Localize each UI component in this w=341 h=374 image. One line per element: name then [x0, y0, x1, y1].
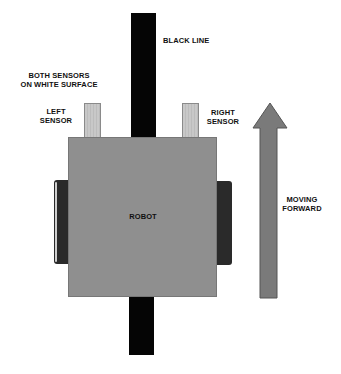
- right-sensor-line-2: SENSOR: [203, 117, 243, 126]
- right-sensor: [182, 103, 199, 139]
- left-sensor-label: LEFT SENSOR: [36, 107, 76, 125]
- status-line-2: ON WHITE SURFACE: [14, 80, 104, 89]
- black-line-label: BLACK LINE: [163, 36, 223, 45]
- robot-label: ROBOT: [118, 212, 168, 221]
- status-line-1: BOTH SENSORS: [14, 71, 104, 80]
- robot-text: ROBOT: [129, 212, 157, 221]
- direction-line-1: MOVING: [279, 195, 325, 204]
- left-sensor-line-1: LEFT: [36, 107, 76, 116]
- left-sensor: [84, 103, 101, 139]
- status-label: BOTH SENSORS ON WHITE SURFACE: [14, 71, 104, 89]
- right-sensor-label: RIGHT SENSOR: [203, 108, 243, 126]
- direction-line-2: FORWARD: [279, 204, 325, 213]
- black-line-text: BLACK LINE: [163, 36, 209, 45]
- direction-label: MOVING FORWARD: [279, 195, 325, 213]
- left-sensor-line-2: SENSOR: [36, 116, 76, 125]
- black-line-top: [131, 13, 156, 139]
- right-sensor-line-1: RIGHT: [203, 108, 243, 117]
- black-line-bottom: [129, 296, 154, 355]
